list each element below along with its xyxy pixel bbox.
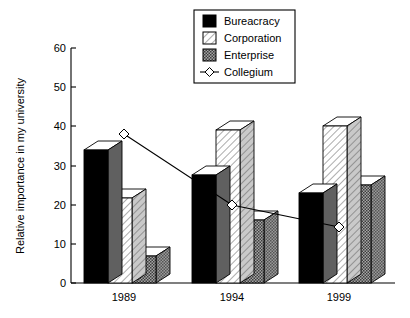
bar-bureacracy-1994 xyxy=(192,166,230,283)
bar-bureacracy-1999 xyxy=(299,184,337,283)
x-tick-label-1989: 1989 xyxy=(112,291,136,303)
x-tick-label-1999: 1999 xyxy=(327,291,351,303)
bar-bureacracy-1989 xyxy=(84,141,122,283)
legend-label-corporation: Corporation xyxy=(224,32,281,44)
y-tick-label-50: 50 xyxy=(54,81,66,93)
legend-swatch-corporation xyxy=(203,32,216,44)
y-tick-label-0: 0 xyxy=(60,277,66,289)
collegium-marker-1989 xyxy=(119,129,129,139)
legend-swatch-enterprise xyxy=(203,49,216,61)
y-tick-label-40: 40 xyxy=(54,120,66,132)
y-tick-label-60: 60 xyxy=(54,42,66,54)
chart-canvas: 60 50 40 30 20 10 0 Relative importance … xyxy=(0,0,410,318)
legend-swatch-bureacracy xyxy=(203,15,216,27)
y-tick-label-20: 20 xyxy=(54,199,66,211)
chart-legend: Bureacracy Corporation Enterprise Colleg… xyxy=(194,10,295,83)
y-tick-label-30: 30 xyxy=(54,160,66,172)
y-axis-title: Relative importance in my university xyxy=(14,77,26,254)
x-tick-label-1994: 1994 xyxy=(220,291,244,303)
y-axis: 60 50 40 30 20 10 0 Relative importance … xyxy=(14,42,76,289)
y-tick-label-10: 10 xyxy=(54,238,66,250)
x-axis: 1989 1994 1999 xyxy=(71,283,395,303)
legend-label-bureacracy: Bureacracy xyxy=(224,15,280,27)
legend-label-collegium: Collegium xyxy=(224,66,273,78)
chart-figure: 60 50 40 30 20 10 0 Relative importance … xyxy=(0,0,410,318)
legend-label-enterprise: Enterprise xyxy=(224,49,274,61)
